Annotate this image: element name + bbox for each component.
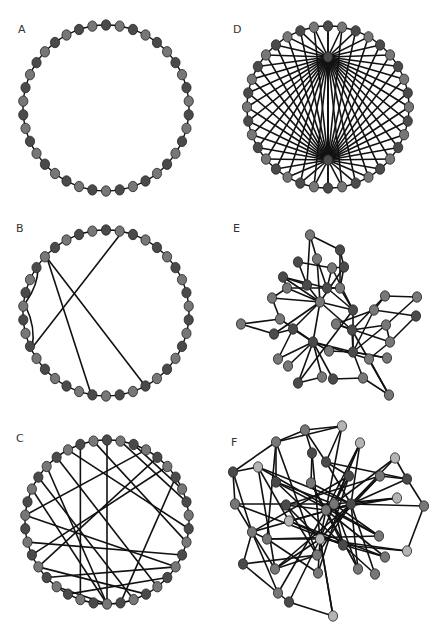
node (392, 493, 401, 503)
node (40, 47, 49, 57)
panel-f-label: F (231, 436, 237, 449)
node (141, 176, 150, 186)
node (40, 364, 49, 374)
node (323, 155, 332, 165)
edge (266, 159, 328, 160)
node (62, 235, 71, 245)
node (184, 96, 193, 106)
node (327, 263, 336, 273)
node (375, 471, 384, 481)
node (152, 373, 161, 383)
node (228, 467, 237, 477)
node (335, 283, 344, 293)
node (284, 516, 293, 526)
node (21, 524, 30, 534)
node (102, 599, 111, 609)
node (364, 354, 373, 364)
node (25, 69, 34, 79)
node (323, 52, 332, 62)
node (74, 229, 83, 239)
node (269, 329, 278, 339)
node (162, 364, 171, 374)
node (412, 292, 421, 302)
node (128, 386, 137, 396)
node (315, 297, 324, 307)
node (338, 540, 347, 550)
node (27, 484, 36, 494)
node (329, 499, 338, 509)
node (34, 472, 43, 482)
node (177, 69, 186, 79)
node (177, 136, 186, 146)
node (50, 373, 59, 383)
node (88, 390, 97, 400)
node (32, 353, 41, 363)
node (171, 262, 180, 272)
node (283, 172, 292, 182)
node (293, 257, 302, 267)
node (236, 319, 245, 329)
node (375, 164, 384, 174)
node (385, 154, 394, 164)
node (115, 226, 124, 236)
node (381, 320, 390, 330)
node (307, 448, 316, 458)
node (358, 373, 367, 383)
node (21, 82, 30, 92)
node (288, 324, 297, 334)
node (296, 26, 305, 36)
node (282, 283, 291, 293)
panel-c-label: C (16, 432, 24, 445)
node (152, 168, 161, 178)
node (403, 88, 412, 98)
node (322, 283, 331, 293)
node (129, 594, 138, 604)
node (344, 471, 353, 481)
panel-a-label: A (18, 23, 26, 36)
node (89, 598, 98, 608)
node (21, 328, 30, 338)
node (331, 319, 340, 329)
node (182, 497, 191, 507)
node (171, 148, 180, 158)
node (247, 527, 256, 537)
node (253, 462, 262, 472)
node (317, 372, 326, 382)
node (163, 461, 172, 471)
node (309, 22, 318, 32)
node (370, 569, 379, 579)
node (278, 272, 287, 282)
node (346, 499, 355, 509)
node (162, 47, 171, 57)
node (404, 102, 413, 112)
node (153, 582, 162, 592)
node (101, 20, 110, 30)
node (351, 178, 360, 188)
node (40, 159, 49, 169)
node (261, 154, 270, 164)
node (312, 550, 321, 560)
node (63, 445, 72, 455)
node (19, 96, 28, 106)
node (270, 564, 279, 574)
node (244, 88, 253, 98)
node (339, 262, 348, 272)
node (355, 438, 364, 448)
node (163, 572, 172, 582)
node (171, 57, 180, 67)
node (184, 510, 193, 520)
node (128, 229, 137, 239)
node (182, 537, 191, 547)
node (390, 453, 399, 463)
node (337, 22, 346, 32)
node (32, 262, 41, 272)
node (42, 572, 51, 582)
node (369, 305, 378, 315)
node (403, 116, 412, 126)
node (62, 30, 71, 40)
node (184, 110, 193, 120)
node (238, 559, 247, 569)
node (101, 186, 110, 196)
node (116, 436, 125, 446)
node (62, 381, 71, 391)
